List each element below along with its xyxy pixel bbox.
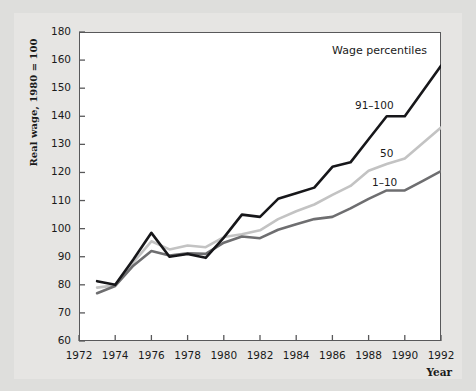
data-series-lines <box>97 66 441 294</box>
series-line-1-10 <box>97 171 441 293</box>
chart-svg <box>0 0 476 391</box>
figure-canvas: Real wage, 1980 = 100 607080901001101201… <box>0 0 476 391</box>
axis-tick-marks <box>79 32 441 341</box>
